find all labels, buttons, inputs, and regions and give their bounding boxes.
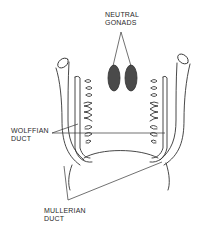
label-line: DUCT <box>44 215 86 223</box>
embryonic-reproductive-diagram: NEUTRAL GONADS WOLFFIAN DUCT MULLERIAN D… <box>0 0 202 232</box>
label-line: DUCT <box>11 135 49 143</box>
right-mesonephric-tubules <box>150 80 158 144</box>
label-line: WOLFFIAN <box>11 127 49 135</box>
mullerian-duct-label: MULLERIAN DUCT <box>44 207 86 223</box>
wolffian-leader-upper <box>52 124 78 133</box>
mullerian-leader-right <box>68 162 162 200</box>
right-mullerian-duct <box>160 52 190 190</box>
left-gonad <box>108 65 120 91</box>
neutral-gonads <box>108 65 137 91</box>
mullerian-leader-left <box>64 166 68 200</box>
label-line: MULLERIAN <box>44 207 86 215</box>
left-mesonephric-tubules <box>84 80 92 144</box>
right-gonad <box>125 65 137 91</box>
diagram-artwork <box>0 0 202 232</box>
urogenital-sinus-curve <box>84 151 158 159</box>
wolffian-duct-label: WOLFFIAN DUCT <box>11 127 49 143</box>
neutral-gonads-label: NEUTRAL GONADS <box>105 11 139 27</box>
gonad-leader-right <box>121 32 131 66</box>
label-line: GONADS <box>105 19 139 27</box>
label-line: NEUTRAL <box>105 11 139 19</box>
gonad-leader-left <box>113 32 121 66</box>
